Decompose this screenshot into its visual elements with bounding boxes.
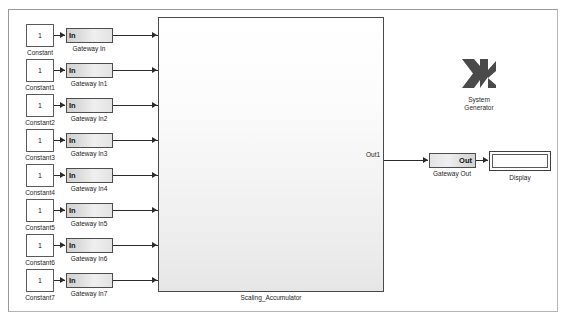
signal-arrow <box>152 67 157 73</box>
signal-arrow <box>60 277 65 283</box>
gateway-in-block[interactable]: In <box>66 28 113 43</box>
gateway-in-port-label: In <box>69 32 76 40</box>
gateway-out-block[interactable]: Out <box>429 153 476 168</box>
gateway-in-port-label: In <box>69 207 76 215</box>
constant-block[interactable]: 1 <box>26 164 54 187</box>
gateway-in-label: Gateway In <box>73 46 106 53</box>
signal-arrow <box>60 32 65 38</box>
gateway-in-block[interactable]: In <box>66 203 113 218</box>
system-generator-line2: Generator <box>464 104 493 112</box>
constant-value: 1 <box>38 137 42 144</box>
constant-block[interactable]: 1 <box>26 59 54 82</box>
signal-arrow <box>60 137 65 143</box>
signal-wire <box>384 160 428 161</box>
signal-arrow <box>423 157 428 163</box>
gateway-in-block[interactable]: In <box>66 98 113 113</box>
constant-block[interactable]: 1 <box>26 94 54 117</box>
constant-label: Constant7 <box>25 295 55 302</box>
constant-value: 1 <box>38 67 42 74</box>
gateway-in-label: Gateway In4 <box>71 186 108 193</box>
constant-label: Constant5 <box>25 225 55 232</box>
signal-arrow <box>60 242 65 248</box>
constant-label: Constant4 <box>25 190 55 197</box>
constant-value: 1 <box>38 242 42 249</box>
constant-value: 1 <box>38 207 42 214</box>
gateway-in-label: Gateway In3 <box>71 151 108 158</box>
gateway-in-label: Gateway In7 <box>71 291 108 298</box>
signal-arrow <box>60 207 65 213</box>
gateway-out-label: Gateway Out <box>433 171 471 178</box>
signal-arrow <box>152 242 157 248</box>
gateway-in-port-label: In <box>69 67 76 75</box>
xilinx-x-logo-icon[interactable] <box>462 58 496 89</box>
system-generator-line1: System <box>464 96 493 104</box>
constant-label: Constant6 <box>25 260 55 267</box>
gateway-in-label: Gateway In6 <box>71 256 108 263</box>
signal-arrow <box>152 277 157 283</box>
constant-block[interactable]: 1 <box>26 199 54 222</box>
gateway-in-label: Gateway In5 <box>71 221 108 228</box>
constant-value: 1 <box>38 172 42 179</box>
signal-arrow <box>483 157 488 163</box>
constant-block[interactable]: 1 <box>26 269 54 292</box>
signal-arrow <box>152 207 157 213</box>
gateway-in-label: Gateway In2 <box>71 116 108 123</box>
subsystem-block-scaling-accumulator[interactable] <box>158 17 384 292</box>
display-value-field <box>492 154 548 168</box>
signal-arrow <box>152 172 157 178</box>
constant-label: Constant1 <box>25 85 55 92</box>
model-canvas: 1 Constant In Gateway In In1 1 Constant1… <box>0 0 570 326</box>
constant-label: Constant <box>27 50 53 57</box>
constant-label: Constant3 <box>25 155 55 162</box>
gateway-in-port-label: In <box>69 277 76 285</box>
gateway-in-label: Gateway In1 <box>71 81 108 88</box>
gateway-in-block[interactable]: In <box>66 238 113 253</box>
signal-arrow <box>152 102 157 108</box>
gateway-in-port-label: In <box>69 242 76 250</box>
signal-arrow <box>60 172 65 178</box>
gateway-in-port-label: In <box>69 172 76 180</box>
subsystem-output-port-label: Out1 <box>366 152 380 159</box>
signal-arrow <box>60 102 65 108</box>
signal-arrow <box>60 67 65 73</box>
signal-arrow <box>152 137 157 143</box>
constant-value: 1 <box>38 277 42 284</box>
subsystem-label: Scaling_Accumulator <box>240 295 301 302</box>
display-block[interactable] <box>489 151 551 171</box>
gateway-in-port-label: In <box>69 102 76 110</box>
gateway-in-block[interactable]: In <box>66 133 113 148</box>
constant-block[interactable]: 1 <box>26 24 54 47</box>
constant-value: 1 <box>38 32 42 39</box>
signal-arrow <box>152 32 157 38</box>
constant-value: 1 <box>38 102 42 109</box>
constant-block[interactable]: 1 <box>26 234 54 257</box>
gateway-in-block[interactable]: In <box>66 168 113 183</box>
gateway-out-port-label: Out <box>459 157 472 165</box>
constant-block[interactable]: 1 <box>26 129 54 152</box>
gateway-in-block[interactable]: In <box>66 63 113 78</box>
display-label: Display <box>509 175 530 182</box>
gateway-in-port-label: In <box>69 137 76 145</box>
constant-label: Constant2 <box>25 120 55 127</box>
gateway-in-block[interactable]: In <box>66 273 113 288</box>
